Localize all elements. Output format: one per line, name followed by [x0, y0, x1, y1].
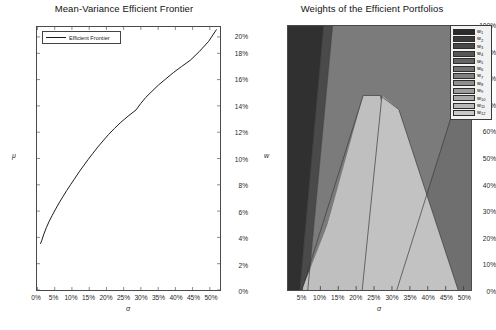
legend-swatch-w10	[453, 95, 475, 101]
plot-area-efficient-frontier	[36, 26, 221, 291]
stacked-weights-areas	[288, 26, 471, 290]
legend-label-w5: w5	[477, 59, 483, 64]
x-tick-label: 5%	[49, 294, 59, 301]
x-tick-label: 15%	[331, 294, 344, 301]
legend-label-w7: w7	[477, 73, 483, 78]
legend-swatch-w5	[453, 58, 475, 64]
x-tick-label: 30%	[134, 294, 147, 301]
legend-efficient-frontier[interactable]: Efficient Frontier	[42, 31, 121, 44]
legend-label-w9: w9	[477, 88, 483, 93]
x-tick-label: 20%	[349, 294, 362, 301]
x-tick-label: 20%	[99, 294, 112, 301]
x-tick-label: 25%	[117, 294, 130, 301]
legend-item-w1[interactable]: w1	[453, 28, 489, 35]
x-tick-label: 50%	[204, 294, 217, 301]
legend-item-w6[interactable]: w6	[453, 65, 489, 72]
legend-item-w10[interactable]: w10	[453, 95, 489, 102]
x-tick-label: 0%	[31, 294, 41, 301]
legend-item-w7[interactable]: w7	[453, 72, 489, 79]
y-axis-label-left: μ	[12, 152, 16, 159]
x-axis-label-right: σ	[377, 305, 381, 312]
panel-efficient-frontier: Mean-Variance Efficient Frontier μ 0% 2%…	[0, 0, 248, 330]
legend-label-w8: w8	[477, 81, 483, 86]
x-tick-label: 35%	[152, 294, 165, 301]
panel-portfolio-weights: Weights of the Efficient Portfolios w 0%…	[248, 0, 496, 330]
efficient-frontier-curve	[37, 27, 220, 290]
x-axis-label-left: σ	[126, 305, 130, 312]
plot-area-portfolio-weights	[287, 25, 472, 291]
y-axis-label-right: w	[264, 152, 269, 159]
x-tick-label: 40%	[169, 294, 182, 301]
x-tick-label: 10%	[64, 294, 77, 301]
legend-item-w8[interactable]: w8	[453, 80, 489, 87]
figure-root: Mean-Variance Efficient Frontier μ 0% 2%…	[0, 0, 496, 330]
legend-swatch-w9	[453, 88, 475, 94]
legend-swatch-w7	[453, 73, 475, 79]
legend-item-w5[interactable]: w5	[453, 58, 489, 65]
legend-swatch-w2	[453, 36, 475, 42]
legend-swatch-w12	[453, 110, 475, 116]
x-tick-label: 30%	[385, 294, 398, 301]
legend-label-w3: w3	[477, 44, 483, 49]
legend-swatch-w1	[453, 29, 475, 35]
legend-label-w6: w6	[477, 66, 483, 71]
legend-swatch-w6	[453, 66, 475, 72]
legend-label-w11: w11	[477, 103, 485, 108]
legend-label-w10: w10	[477, 96, 485, 101]
page-title-right: Weights of the Efficient Portfolios	[248, 3, 496, 14]
x-tick-label: 5%	[297, 294, 307, 301]
x-tick-label: 15%	[82, 294, 95, 301]
x-tick-label: 45%	[440, 294, 453, 301]
legend-swatch-w8	[453, 80, 475, 86]
x-tick-label: 40%	[422, 294, 435, 301]
x-tick-label: 35%	[403, 294, 416, 301]
legend-label-w1: w1	[477, 29, 483, 34]
legend-item-w9[interactable]: w9	[453, 87, 489, 94]
legend-item-w12[interactable]: w12	[453, 109, 489, 116]
legend-label-w12: w12	[477, 110, 485, 115]
x-tick-label: 50%	[458, 294, 471, 301]
x-tick-label: 10%	[313, 294, 326, 301]
legend-swatch-w3	[453, 43, 475, 49]
legend-portfolio-weights[interactable]: w1 w2 w3 w4 w5 w6	[450, 25, 492, 120]
page-title-left: Mean-Variance Efficient Frontier	[0, 3, 248, 14]
legend-item-w2[interactable]: w2	[453, 35, 489, 42]
x-tick-label: 45%	[187, 294, 200, 301]
legend-item-label: Efficient Frontier	[69, 35, 110, 41]
legend-label-w4: w4	[477, 51, 483, 56]
x-tick-label: 25%	[367, 294, 380, 301]
legend-line-swatch	[46, 37, 66, 38]
legend-item-w4[interactable]: w4	[453, 50, 489, 57]
legend-swatch-w11	[453, 103, 475, 109]
legend-swatch-w4	[453, 51, 475, 57]
legend-item-w11[interactable]: w11	[453, 102, 489, 109]
legend-item-w3[interactable]: w3	[453, 43, 489, 50]
legend-label-w2: w2	[477, 36, 483, 41]
